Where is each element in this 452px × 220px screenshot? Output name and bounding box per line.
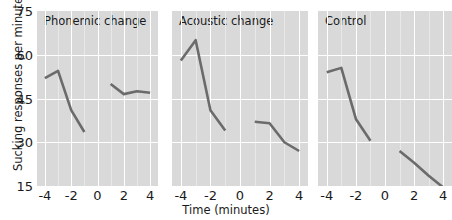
x-tick-label: 4 [295, 188, 303, 203]
data-series-group [318, 11, 452, 186]
data-line-pre-change [181, 40, 225, 130]
x-tick-label: 0 [93, 188, 101, 203]
x-tick-label: -2 [349, 188, 362, 203]
x-tick-label: 4 [146, 188, 154, 203]
x-tick-label: 2 [265, 188, 273, 203]
y-tick-label: 75 [3, 4, 33, 19]
panel-control: Control [318, 11, 452, 186]
x-tick-label: 4 [439, 188, 447, 203]
y-tick-label: 60 [3, 47, 33, 62]
x-tick-label: -4 [320, 188, 333, 203]
data-line-pre-change [327, 68, 371, 141]
y-tick-label: 15 [3, 179, 33, 194]
x-tick-label: -4 [174, 188, 187, 203]
x-tick-label: -4 [38, 188, 51, 203]
x-tick-label: 2 [410, 188, 418, 203]
x-tick-label: 2 [120, 188, 128, 203]
data-series-group [172, 11, 308, 186]
x-axis-label: Time (minutes) [0, 203, 452, 217]
data-line-post-change [255, 122, 299, 151]
x-tick-label: -2 [204, 188, 217, 203]
y-axis: Sucking responses per minute 75 60 45 30… [0, 0, 33, 220]
data-line-pre-change [45, 71, 84, 132]
x-tick-label: -2 [65, 188, 78, 203]
x-tick-label: 0 [381, 188, 389, 203]
data-series-group [37, 11, 158, 186]
x-tick-label: 0 [236, 188, 244, 203]
y-tick-label: 30 [3, 135, 33, 150]
panel-phonemic-change: Phonemic change [37, 11, 158, 186]
data-line-post-change [111, 84, 150, 94]
panel-acoustic-change: Acoustic change [172, 11, 308, 186]
figure: Sucking responses per minute 75 60 45 30… [0, 0, 452, 220]
data-line-post-change [400, 151, 444, 186]
y-tick-label: 45 [3, 91, 33, 106]
